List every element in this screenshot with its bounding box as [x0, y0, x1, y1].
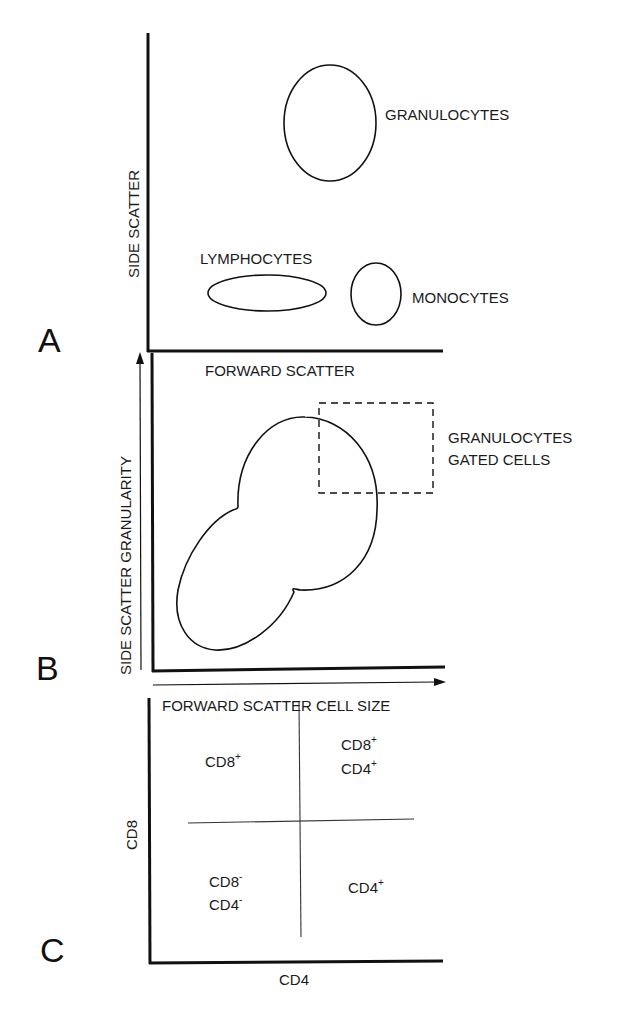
granulocytes-population — [284, 65, 376, 181]
lymphocytes-population — [208, 275, 326, 311]
panel-b: B SIDE SCATTER GRANULARITY FORWARD SCATT… — [36, 352, 572, 714]
panel-letter-c: C — [40, 931, 65, 969]
quadrant-lower-left-label-1: CD8- — [209, 871, 242, 890]
panel-letter-b: B — [36, 649, 59, 687]
panel-c: C CD8 CD4 CD8+ CD8+ CD4+ CD8- CD4- CD4+ — [40, 698, 443, 988]
panel-a: A SIDE SCATTER FORWARD SCATTER GRANULOCY… — [38, 33, 509, 379]
x-axis — [152, 667, 445, 671]
y-axis-label: SIDE SCATTER GRANULARITY — [117, 456, 134, 675]
granulocytes-label: GRANULOCYTES — [385, 106, 509, 123]
y-arrow-line — [140, 360, 141, 670]
monocytes-population — [351, 263, 401, 325]
quadrant-upper-left-label: CD8+ — [205, 751, 241, 770]
y-axis — [149, 698, 150, 964]
y-axis-label: CD8 — [123, 820, 140, 850]
panel-letter-a: A — [38, 321, 61, 359]
flow-cytometry-figure: A SIDE SCATTER FORWARD SCATTER GRANULOCY… — [0, 0, 632, 1017]
granulocyte-gate — [319, 403, 433, 493]
x-axis-label: FORWARD SCATTER — [205, 362, 355, 379]
x-axis — [149, 961, 443, 963]
arrow-up-icon — [136, 352, 144, 364]
monocytes-label: MONOCYTES — [412, 289, 509, 306]
quadrant-upper-right-label-1: CD8+ — [341, 734, 377, 753]
lymphocytes-label: LYMPHOCYTES — [200, 250, 312, 267]
x-arrow-line — [153, 682, 437, 685]
cell-population-contour — [177, 417, 377, 650]
x-axis-label: CD4 — [279, 971, 309, 988]
quadrant-horizontal-divider — [188, 819, 414, 823]
quadrant-vertical-divider — [299, 702, 301, 937]
y-axis-label: SIDE SCATTER — [125, 170, 142, 278]
arrow-right-icon — [434, 678, 446, 686]
quadrant-upper-right-label-2: CD4+ — [341, 758, 377, 777]
gate-label-line2: GATED CELLS — [448, 451, 550, 468]
quadrant-lower-right-label: CD4+ — [348, 877, 384, 896]
x-axis-label: FORWARD SCATTER CELL SIZE — [162, 697, 390, 714]
y-axis — [152, 353, 153, 672]
gate-label-line1: GRANULOCYTES — [448, 429, 572, 446]
quadrant-lower-left-label-2: CD4- — [209, 894, 242, 913]
